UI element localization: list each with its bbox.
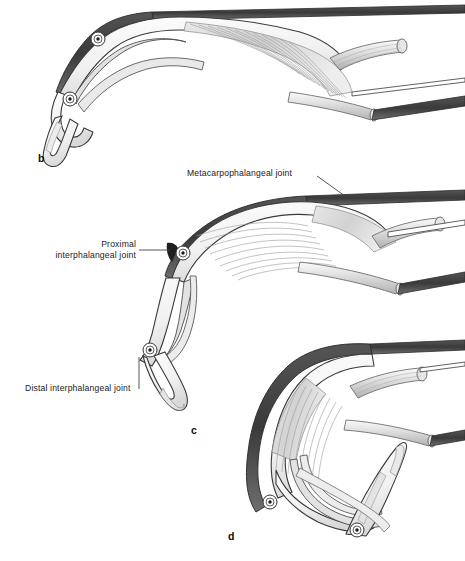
flexor-tendon-tube-d bbox=[344, 420, 432, 446]
flexor-tendon-tube-c bbox=[298, 262, 400, 294]
panel-d-illustration bbox=[246, 340, 465, 537]
joint-marker-c-pip bbox=[176, 246, 190, 260]
panel-letter-d: d bbox=[228, 530, 234, 542]
joint-marker-d-pip bbox=[350, 523, 364, 537]
label-pip-line2: interphalangeal joint bbox=[0, 250, 136, 261]
panel-letter-c: c bbox=[191, 424, 197, 436]
leader-line-mcp bbox=[317, 176, 345, 196]
panel-letter-b: b bbox=[38, 152, 44, 164]
extensor-tendon-band-upper-d bbox=[370, 340, 465, 354]
volar-band-b bbox=[372, 96, 465, 120]
anatomy-illustration bbox=[0, 0, 465, 561]
muscle-tube-cut-end-b bbox=[397, 39, 407, 53]
joint-marker-c-dip bbox=[143, 343, 157, 357]
muscle-tube-upper-d bbox=[350, 368, 424, 398]
joint-marker-b-pip bbox=[63, 92, 77, 106]
muscle-tube-upper-b bbox=[330, 40, 404, 70]
volar-band-d bbox=[430, 430, 465, 446]
label-metacarpophalangeal-joint: Metacarpophalangeal joint bbox=[187, 168, 292, 179]
proximal-phalanx-c bbox=[172, 202, 388, 282]
joint-marker-b-mcp bbox=[91, 32, 105, 46]
joint-marker-d-mcp bbox=[263, 495, 277, 509]
panel-b-illustration bbox=[43, 5, 465, 167]
label-proximal-interphalangeal-joint: Proximal interphalangeal joint bbox=[0, 239, 136, 261]
oblique-slip-b bbox=[78, 58, 204, 112]
volar-band-c bbox=[398, 272, 465, 294]
label-pip-line1: Proximal bbox=[0, 239, 136, 250]
anatomy-figure: Metacarpophalangeal joint Proximal inter… bbox=[0, 0, 465, 561]
thin-tendon-line-b bbox=[352, 78, 465, 96]
label-distal-interphalangeal-joint: Distal interphalangeal joint bbox=[25, 383, 131, 394]
flexor-tendon-tube-b bbox=[288, 92, 374, 120]
thin-tendon-line-d bbox=[420, 362, 465, 372]
